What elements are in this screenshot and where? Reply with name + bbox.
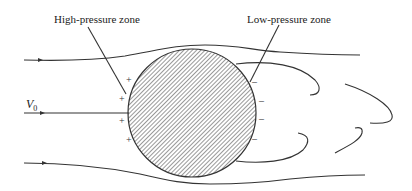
velocity-subscript: 0 xyxy=(33,104,37,113)
center-streamline-arrow-icon xyxy=(40,111,45,115)
cylinder xyxy=(128,49,256,177)
velocity-label: V0 xyxy=(26,98,37,113)
top-streamline-arrow-icon xyxy=(38,58,43,62)
minus-sign: – xyxy=(252,77,257,87)
bottom-streamline-arrow-icon xyxy=(42,161,47,165)
low-pressure-zone-label: Low-pressure zone xyxy=(247,14,331,25)
low-pressure-leader-line xyxy=(250,25,279,82)
flow-around-cylinder-diagram xyxy=(0,0,412,191)
plus-sign: + xyxy=(119,116,125,126)
plus-sign: + xyxy=(126,75,132,85)
wake-curve-far-upper xyxy=(345,84,392,123)
minus-sign: – xyxy=(259,114,264,124)
minus-sign: – xyxy=(252,134,257,144)
minus-sign: – xyxy=(259,96,264,106)
high-pressure-zone-label: High-pressure zone xyxy=(54,14,140,25)
plus-sign: + xyxy=(126,135,132,145)
plus-sign: + xyxy=(119,94,125,104)
wake-curve-far-lower xyxy=(335,128,362,153)
high-pressure-leader-line xyxy=(88,27,126,94)
